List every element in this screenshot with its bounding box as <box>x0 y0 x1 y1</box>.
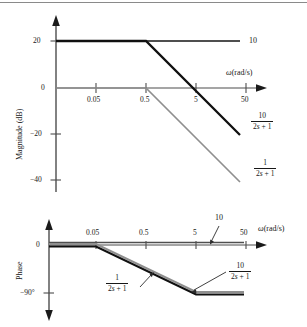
den-post: + 1 <box>263 169 275 178</box>
phase-label-one-over-2s1: 1 2s + 1 <box>106 274 128 293</box>
magnitude-ytick-minus-20: −20 <box>30 130 42 138</box>
magnitude-y-axis-label: Magnitude (dB) <box>16 109 24 160</box>
phase-x-axis-label: ω(rad/s) <box>258 225 285 233</box>
magnitude-curves <box>56 41 240 182</box>
phase-xtick-5: 5 <box>193 229 197 237</box>
phase-y-axis-label: Phase <box>16 261 24 280</box>
magnitude-x-axis-label: ω(rad/s) <box>226 69 253 77</box>
magnitude-ten-over-num: 10 <box>251 112 273 121</box>
den-post: + 1 <box>260 122 272 131</box>
den-post: + 1 <box>238 272 250 281</box>
curve-one-over-2s1-phase <box>49 244 244 292</box>
phase-xtick-50: 50 <box>240 229 248 237</box>
phase-xtick-05: 0.5 <box>139 229 148 237</box>
phase-ytick-0: 0 <box>36 241 40 249</box>
magnitude-ytick-0: 0 <box>41 84 45 92</box>
phase-label-gain-10: 10 <box>215 214 223 222</box>
magnitude-ytick-minus-40: −40 <box>30 176 42 184</box>
magnitude-label-one-over-2s1: 1 2s + 1 <box>254 159 276 178</box>
phase-ytick-minus-90: −90° <box>20 289 35 297</box>
phase-ten-over-num: 10 <box>229 262 251 271</box>
magnitude-one-over-num: 1 <box>254 159 276 168</box>
magnitude-xtick-50: 50 <box>241 96 249 104</box>
magnitude-label-gain-10: 10 <box>249 37 257 45</box>
magnitude-xtick-05: 0.5 <box>140 96 149 104</box>
den-post: + 1 <box>115 284 127 293</box>
magnitude-x-axis-units: (rad/s) <box>232 68 253 77</box>
leader-lines <box>140 226 226 294</box>
magnitude-xtick-5: 5 <box>194 96 198 104</box>
magnitude-ytick-20: 20 <box>33 37 41 45</box>
phase-one-over-den: 2s + 1 <box>106 285 128 294</box>
phase-one-over-num: 1 <box>106 274 128 283</box>
magnitude-one-over-den: 2s + 1 <box>254 170 276 179</box>
bode-plot-figure: Magnitude (dB) 20 0 −20 −40 0.05 0.5 5 5… <box>0 0 307 327</box>
magnitude-xtick-005: 0.05 <box>87 96 100 104</box>
curve-ten-over-2s1-phase <box>49 247 244 295</box>
phase-curves <box>49 243 244 295</box>
phase-ten-over-den: 2s + 1 <box>229 273 251 282</box>
magnitude-ten-over-den: 2s + 1 <box>251 123 273 132</box>
phase-x-axis-units: (rad/s) <box>264 224 285 233</box>
magnitude-label-ten-over-2s1: 10 2s + 1 <box>251 112 273 131</box>
phase-xtick-005: 0.05 <box>86 229 99 237</box>
phase-label-ten-over-2s1: 10 2s + 1 <box>229 262 251 281</box>
